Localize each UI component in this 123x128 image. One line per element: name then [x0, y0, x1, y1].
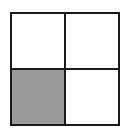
- grid-cell-top-left: [12, 14, 65, 69]
- grid-diagram: [10, 12, 120, 126]
- grid-cell-top-right: [65, 14, 118, 69]
- grid-cell-bottom-left-shaded: [12, 69, 65, 124]
- grid-cell-bottom-right: [65, 69, 118, 124]
